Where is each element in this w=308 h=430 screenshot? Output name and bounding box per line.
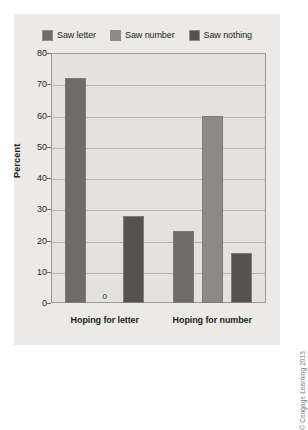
y-tick-label: 70: [13, 79, 47, 89]
legend-label-saw-nothing: Saw nothing: [204, 30, 252, 40]
y-tick-label: 50: [13, 142, 47, 152]
legend-label-saw-number: Saw number: [125, 30, 175, 40]
bar: [123, 216, 144, 304]
bar-value-label: 0: [103, 292, 107, 301]
y-tick-label: 10: [13, 267, 47, 277]
legend-label-saw-letter: Saw letter: [57, 30, 96, 40]
legend-swatch-saw-letter: [42, 30, 53, 41]
legend-item-saw-letter: Saw letter: [42, 30, 96, 41]
legend-swatch-saw-nothing: [189, 30, 200, 41]
y-tick-label: 40: [13, 173, 47, 183]
x-category-label: Hoping for letter: [71, 315, 139, 325]
y-tick-label: 0: [13, 298, 47, 308]
y-tick-label: 80: [13, 48, 47, 58]
bars-layer: 0: [51, 53, 266, 303]
bar: [173, 231, 194, 303]
legend-swatch-saw-number: [110, 30, 121, 41]
legend-item-saw-number: Saw number: [110, 30, 175, 41]
legend-item-saw-nothing: Saw nothing: [189, 30, 252, 41]
y-tick-label: 30: [13, 204, 47, 214]
copyright-credit: © Cengage Learning 2013: [299, 351, 306, 430]
bar: [202, 116, 223, 304]
y-tick-label: 60: [13, 111, 47, 121]
chart-legend: Saw letter Saw number Saw nothing: [14, 26, 280, 44]
bar: [231, 253, 252, 303]
y-tick-label: 20: [13, 236, 47, 246]
bar: [65, 78, 86, 303]
x-category-label: Hoping for number: [173, 315, 252, 325]
y-tick-mark: [46, 303, 51, 304]
